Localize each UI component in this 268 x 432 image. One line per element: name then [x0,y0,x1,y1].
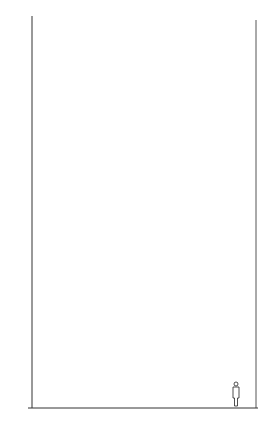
tree-height-diagram [0,0,268,432]
human-figure-icon [233,382,239,406]
